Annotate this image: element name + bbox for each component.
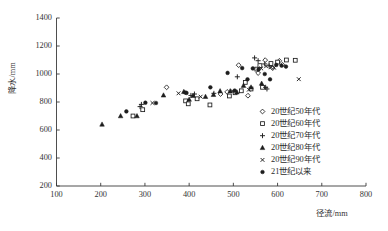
data-point	[141, 108, 145, 112]
legend-label: 20世纪50年代	[271, 106, 321, 116]
x-tick-label: 600	[271, 190, 283, 199]
data-point	[297, 77, 301, 81]
data-point	[151, 101, 155, 105]
data-point	[186, 102, 190, 106]
data-point	[227, 94, 231, 98]
legend-label: 20世纪80年代	[271, 142, 321, 152]
series-3	[138, 55, 272, 109]
data-point	[240, 66, 244, 70]
x-tick-label: 800	[360, 190, 372, 199]
data-point	[177, 91, 181, 95]
data-point	[236, 63, 241, 68]
legend-label: 20世纪70年代	[271, 130, 321, 140]
data-point	[285, 58, 289, 62]
y-tick-label: 200	[40, 181, 52, 190]
x-axis-title: 径流/mm	[316, 208, 348, 218]
data-point	[252, 55, 257, 60]
legend-marker-square-open	[261, 122, 265, 126]
data-point	[164, 85, 169, 90]
data-point	[274, 63, 278, 67]
data-point	[246, 93, 251, 98]
data-point	[131, 114, 135, 118]
data-point	[208, 103, 212, 107]
data-point	[226, 71, 230, 75]
data-point	[233, 89, 237, 93]
legend-item-2[interactable]: 20世纪60年代	[261, 118, 321, 128]
y-tick-labels: 200400600800100012001400	[35, 13, 52, 190]
y-tick-label: 800	[40, 97, 52, 106]
legend-item-3[interactable]: 20世纪70年代	[260, 130, 321, 140]
data-point	[268, 77, 272, 81]
data-point	[246, 77, 250, 81]
plot-canvas: 200400600800100012001400 100200300400500…	[0, 0, 388, 231]
data-point	[251, 67, 255, 71]
data-point	[280, 64, 284, 68]
legend: 20世纪50年代20世纪60年代20世纪70年代20世纪80年代20世纪90年代…	[260, 106, 321, 177]
legend-label: 20世纪60年代	[271, 118, 321, 128]
series-4	[100, 81, 264, 126]
data-point	[218, 89, 223, 93]
data-point	[239, 89, 243, 93]
legend-marker-plus	[260, 133, 265, 138]
data-point	[118, 114, 123, 118]
data-point	[203, 94, 208, 98]
data-point	[293, 58, 297, 62]
data-point	[185, 91, 189, 95]
legend-marker-triangle-filled	[260, 145, 265, 149]
scatter-chart: 200400600800100012001400 100200300400500…	[0, 0, 388, 231]
x-tick-label: 200	[94, 190, 106, 199]
x-tick-labels: 100200300400500600700800	[50, 190, 372, 199]
data-point	[195, 97, 199, 101]
legend-label: 21世纪以来	[271, 166, 312, 176]
legend-item-5[interactable]: 20世纪90年代	[261, 154, 321, 164]
legend-item-1[interactable]: 20世纪50年代	[260, 106, 321, 116]
legend-item-6[interactable]: 21世纪以来	[261, 166, 313, 176]
series-5	[151, 64, 301, 104]
x-tick-label: 400	[183, 190, 195, 199]
legend-marker-circle-filled	[261, 170, 265, 174]
legend-item-4[interactable]: 20世纪80年代	[260, 142, 321, 152]
data-point	[135, 114, 140, 118]
data-point	[257, 68, 261, 72]
data-point	[284, 65, 288, 69]
data-point	[235, 74, 240, 79]
y-tick-label: 600	[40, 125, 52, 134]
legend-marker-x-small	[261, 158, 265, 162]
x-tick-label: 300	[139, 190, 151, 199]
data-point	[144, 101, 148, 105]
y-tick-label: 1200	[35, 41, 52, 50]
x-tick-label: 100	[50, 190, 62, 199]
data-point	[100, 122, 105, 126]
legend-marker-diamond-open	[260, 109, 265, 114]
data-point	[263, 72, 267, 76]
data-point	[125, 110, 129, 114]
data-point	[209, 85, 213, 89]
data-point	[161, 93, 166, 97]
x-tick-label: 500	[227, 190, 239, 199]
y-tick-label: 400	[40, 153, 52, 162]
data-point	[256, 58, 261, 63]
y-tick-label: 1400	[35, 13, 52, 22]
legend-label: 20世纪90年代	[271, 154, 321, 164]
data-point	[259, 81, 264, 85]
y-tick-label: 1000	[35, 69, 52, 78]
y-axis-title: 降水/mm	[7, 62, 17, 94]
x-tick-label: 700	[316, 190, 328, 199]
data-point	[154, 101, 158, 105]
